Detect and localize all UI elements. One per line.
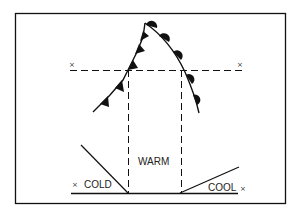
cool-marker: × <box>240 185 246 193</box>
cold-front-triangle-icon <box>100 96 109 107</box>
warm-label: WARM <box>138 156 169 167</box>
cold-front <box>93 23 149 112</box>
cold-front-triangle-icon <box>115 80 124 92</box>
cold-marker: × <box>72 181 78 189</box>
occluded-front-diagram: × × WARM × COLD COOL × <box>0 0 296 214</box>
cold-label: COLD <box>84 179 112 190</box>
cold-front-triangle-icon <box>135 44 145 54</box>
warm-front-semicircle-icon <box>146 21 157 28</box>
section-end-marker: × <box>237 61 243 69</box>
cold-front-triangle-icon <box>128 60 138 70</box>
cold-front-triangle-icon <box>140 31 149 41</box>
section-start-marker: × <box>69 61 75 69</box>
warm-front-semicircle-icon <box>193 95 200 105</box>
cool-label: COOL <box>208 182 237 193</box>
warm-front <box>145 21 200 113</box>
diagram-frame <box>16 14 286 204</box>
